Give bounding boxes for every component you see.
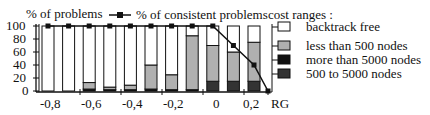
- bar-segment: [248, 81, 260, 91]
- swatch-more-5000: [278, 55, 290, 64]
- bar-segment: [186, 36, 198, 90]
- x-tick-0.2: 0,2: [243, 97, 259, 111]
- bar-segment: [104, 26, 116, 87]
- bar-segment: [207, 26, 219, 46]
- line-marker: [210, 24, 215, 29]
- x-tick--0.6: -0,6: [81, 97, 102, 111]
- x-tick-0: 0: [213, 97, 220, 111]
- bar-segment: [227, 81, 239, 91]
- bar-segment: [145, 65, 157, 89]
- y-axis-label: % of problems: [26, 7, 103, 21]
- legend-label-less-500: less than 500 nodes: [306, 39, 407, 53]
- bar-segment: [248, 26, 260, 42]
- line-marker: [231, 43, 236, 48]
- bar-segment: [207, 46, 219, 82]
- bar-segment: [166, 26, 178, 75]
- swatch-backtrack-free: [278, 22, 290, 31]
- legend-label-500-5000: 500 to 5000 nodes: [306, 67, 402, 81]
- line-marker: [66, 24, 71, 29]
- bar-segment: [166, 75, 178, 90]
- bar-segment: [124, 85, 136, 90]
- line-marker: [107, 24, 112, 29]
- line-marker: [190, 24, 195, 29]
- y-tick-0: 0: [22, 84, 29, 98]
- line-marker: [252, 63, 257, 68]
- line-legend-marker: [117, 12, 123, 18]
- swatch-less-500: [278, 41, 290, 50]
- line-marker: [169, 24, 174, 29]
- bar-segment: [227, 26, 239, 52]
- line-marker: [87, 24, 92, 29]
- bar-segment: [124, 26, 136, 85]
- bar-segment: [227, 52, 239, 81]
- stacked-bars: [42, 26, 260, 91]
- bar-segment: [145, 26, 157, 65]
- line-marker: [128, 24, 133, 29]
- line-legend-label: % of consistent problems: [136, 8, 268, 22]
- x-tick--0.8: -0,8: [40, 97, 61, 111]
- x-tick--0.4: -0,4: [122, 97, 143, 111]
- bar-segment: [83, 83, 95, 90]
- bar-segment: [207, 81, 219, 91]
- bar-segment: [63, 26, 75, 91]
- bar-segment: [83, 26, 95, 83]
- line-marker: [149, 24, 154, 29]
- swatch-500-5000: [278, 69, 290, 78]
- line-marker: [46, 24, 51, 29]
- x-tick--0.2: -0,2: [163, 97, 184, 111]
- bar-segment: [42, 26, 54, 91]
- legend-label-backtrack-free: backtrack free: [306, 20, 380, 34]
- x-tick-rg: RG: [271, 97, 289, 111]
- legend-swatches: [268, 22, 290, 92]
- line-marker: [266, 89, 271, 94]
- legend-label-more-5000: more than 5000 nodes: [306, 53, 421, 67]
